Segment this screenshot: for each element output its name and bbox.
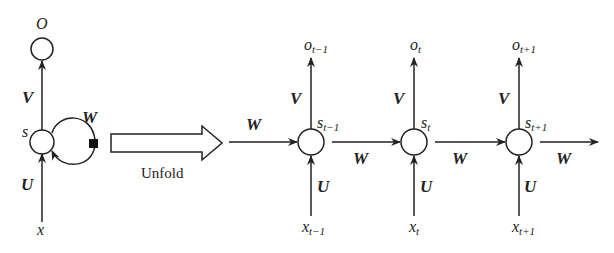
weight-label-w-loop: W <box>82 109 97 126</box>
unfold-arrow-icon <box>111 126 222 160</box>
weight-label-v-t: V <box>393 90 404 107</box>
weight-label-v-t-plus-1: V <box>498 90 509 107</box>
weight-label-u-t-plus-1: U <box>524 178 536 195</box>
weight-label-u-t-minus-1: U <box>317 178 329 195</box>
weight-label-v: V <box>22 89 33 106</box>
input-label-x: x <box>37 222 44 238</box>
output-label-t-plus-1: ot+1 <box>512 37 536 55</box>
unfold-label: Unfold <box>141 166 184 181</box>
weight-label-w-incoming: W <box>246 116 261 133</box>
delay-square-icon <box>89 139 98 148</box>
state-label-t: st <box>421 115 430 133</box>
output-label-t-minus-1: ot−1 <box>304 37 328 55</box>
weight-label-u: U <box>21 176 33 193</box>
folded-network <box>30 38 98 222</box>
output-label-t: ot <box>410 37 421 55</box>
input-label-t: xt <box>409 219 419 237</box>
weight-label-w-t-plus-1: W <box>556 150 571 167</box>
state-label-t-minus-1: st−1 <box>317 115 339 133</box>
weight-label-v-t-minus-1: V <box>290 90 301 107</box>
weight-label-w-t: W <box>452 150 467 167</box>
output-node-o <box>31 38 53 60</box>
weight-label-w-t-minus-1: W <box>353 150 368 167</box>
state-label-t-plus-1: st+1 <box>525 115 547 133</box>
unfolded-network <box>229 58 598 216</box>
state-node-s <box>30 130 54 154</box>
input-label-t-plus-1: xt+1 <box>512 219 535 237</box>
output-label-o: O <box>36 16 48 32</box>
state-label-s: s <box>22 124 28 140</box>
input-label-t-minus-1: xt−1 <box>302 219 325 237</box>
weight-label-u-t: U <box>420 178 432 195</box>
